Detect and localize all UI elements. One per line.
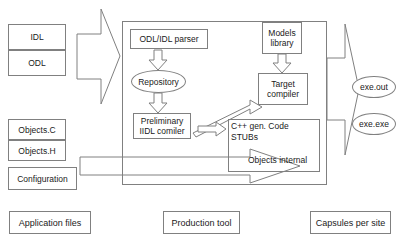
- output-exe-out-label: exe.out: [360, 82, 388, 92]
- cpp-gen-code-label: C++ gen. Code: [231, 121, 319, 132]
- output-exe-exe[interactable]: exe.exe: [352, 113, 396, 135]
- repository-label: Repository: [138, 77, 179, 87]
- target-compiler-label: Target compiler: [267, 79, 299, 99]
- repository-ellipse[interactable]: Repository: [131, 70, 186, 93]
- source-file-objects-h-label: Objects.H: [18, 146, 55, 156]
- stubs-text-group: C++ gen. Code STUBs: [231, 121, 319, 143]
- odl-idl-parser-label: ODL/IDL parser: [139, 34, 198, 44]
- source-file-objects-c-label: Objects.C: [18, 125, 55, 135]
- models-library-label: Models library: [268, 28, 295, 48]
- models-library-box[interactable]: Models library: [262, 22, 302, 54]
- source-file-objects-h[interactable]: Objects.H: [8, 140, 66, 161]
- source-file-objects-c[interactable]: Objects.C: [8, 119, 66, 140]
- diagram-canvas: IDL ODL Objects.C Objects.H Configuratio…: [0, 0, 399, 243]
- odl-idl-parser-box[interactable]: ODL/IDL parser: [130, 29, 208, 49]
- objects-internal-text: Objects internal: [248, 155, 320, 166]
- preliminary-iidl-compiler-box[interactable]: Preliminary IIDL comiler: [133, 113, 191, 139]
- source-file-configuration[interactable]: Configuration: [8, 167, 77, 190]
- preliminary-iidl-compiler-label: Preliminary IIDL comiler: [139, 116, 184, 136]
- target-compiler-box[interactable]: Target compiler: [258, 73, 308, 105]
- output-exe-out[interactable]: exe.out: [352, 76, 396, 98]
- legend-application-files[interactable]: Application files: [9, 211, 91, 234]
- legend-production-tool-label: Production tool: [171, 218, 231, 228]
- input-file-idl[interactable]: IDL: [8, 24, 66, 50]
- output-exe-exe-label: exe.exe: [359, 119, 389, 129]
- input-file-idl-label: IDL: [30, 32, 43, 42]
- stubs-label: STUBs: [231, 132, 319, 143]
- objects-internal-label: Objects internal: [248, 155, 320, 166]
- legend-capsules-per-site[interactable]: Capsules per site: [310, 211, 391, 234]
- legend-capsules-per-site-label: Capsules per site: [316, 218, 386, 228]
- input-file-odl-label: ODL: [28, 58, 45, 68]
- arrow-input-to-tool: [77, 9, 120, 104]
- input-file-odl[interactable]: ODL: [8, 50, 66, 76]
- legend-application-files-label: Application files: [19, 218, 82, 228]
- source-file-configuration-label: Configuration: [17, 174, 68, 184]
- legend-production-tool[interactable]: Production tool: [163, 211, 240, 234]
